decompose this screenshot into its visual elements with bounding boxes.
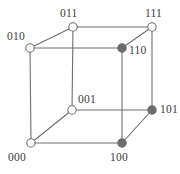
cube-graph-figure: 010011111110001101000100 [0,0,180,174]
cube-edge-011-001 [72,27,73,110]
cube-vertex-001[interactable] [68,106,76,114]
vertex-label-000: 000 [8,152,26,164]
vertex-label-101: 101 [160,104,178,116]
cube-vertex-010[interactable] [26,44,34,52]
cube-edge-101-100 [122,110,152,143]
nodes-group [26,23,156,147]
cube-vertex-011[interactable] [69,23,77,31]
cube-vertex-101[interactable] [148,106,156,114]
cube-vertex-100[interactable] [118,139,126,147]
cube-edge-010-011 [30,27,73,48]
vertex-label-100: 100 [110,152,128,164]
cube-vertex-000[interactable] [27,139,35,147]
cube-edge-010-000 [30,48,31,143]
cube-graph-svg [0,0,180,174]
cube-vertex-110[interactable] [118,44,126,52]
vertex-label-011: 011 [60,8,77,20]
vertex-label-010: 010 [7,31,25,43]
vertex-label-111: 111 [145,8,162,20]
vertex-label-110: 110 [129,45,146,57]
cube-vertex-111[interactable] [148,23,156,31]
cube-edge-000-001 [31,110,72,143]
vertex-label-001: 001 [78,94,96,106]
